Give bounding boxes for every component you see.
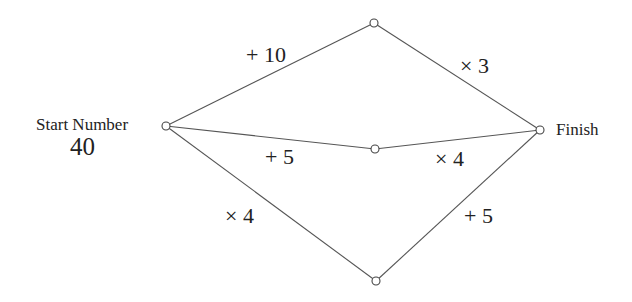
node-middle xyxy=(371,145,379,153)
finish-label: Finish xyxy=(556,120,599,140)
edge-label-times-4-bottom: × 4 xyxy=(225,203,254,229)
edge-start-top xyxy=(166,23,374,126)
start-label: Start Number xyxy=(36,115,128,135)
node-bottom xyxy=(372,277,380,285)
edge-label-times-4-middle: × 4 xyxy=(435,146,464,172)
start-value: 40 xyxy=(70,133,95,161)
edge-label-plus-5-middle: + 5 xyxy=(265,144,294,170)
node-start xyxy=(162,122,170,130)
node-top xyxy=(370,19,378,27)
node-finish xyxy=(536,126,544,134)
edge-top-finish xyxy=(374,23,540,130)
edge-label-times-3: × 3 xyxy=(460,53,489,79)
edge-label-plus-10: + 10 xyxy=(246,42,286,68)
edge-label-plus-5-bottom: + 5 xyxy=(464,203,493,229)
